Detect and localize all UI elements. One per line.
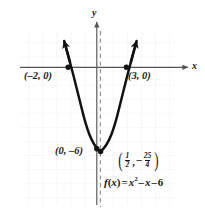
vertex-x-fraction: 1 2 bbox=[125, 152, 131, 169]
x-axis-label: x bbox=[192, 61, 197, 71]
y-axis-label: y bbox=[92, 8, 96, 18]
label-x-intercept-left: (–2, 0) bbox=[24, 71, 52, 82]
graph-canvas bbox=[0, 0, 205, 221]
quadratic-graph-figure: y x (–2, 0) (3, 0) (0, –6) ( 1 2 , – 25 … bbox=[0, 0, 205, 221]
point-marker-vertex bbox=[98, 149, 103, 154]
point-marker-root-left bbox=[66, 65, 71, 70]
label-function-equation: f(x) = x2 – x – 6 bbox=[104, 176, 163, 188]
vertex-x-denominator: 2 bbox=[125, 160, 131, 169]
vertex-close-paren: ) bbox=[154, 152, 158, 169]
equation-equals-sign: = bbox=[121, 176, 127, 188]
equation-close-paren: ) bbox=[117, 176, 121, 188]
equation-exponent: 2 bbox=[134, 175, 138, 183]
label-y-intercept: (0, –6) bbox=[55, 146, 83, 157]
equation-minus-1: – bbox=[139, 176, 145, 188]
equation-minus-2: – bbox=[151, 176, 157, 188]
vertex-y-fraction: 25 4 bbox=[143, 152, 153, 169]
vertex-open-paren: ( bbox=[118, 152, 122, 169]
label-x-intercept-right: (3, 0) bbox=[128, 71, 151, 82]
vertex-minus-sign: – bbox=[136, 155, 142, 166]
equation-constant: 6 bbox=[158, 176, 164, 188]
label-vertex: ( 1 2 , – 25 4 ) bbox=[117, 152, 160, 169]
vertex-y-numerator: 25 bbox=[143, 152, 153, 160]
equation-linear-term: x bbox=[145, 176, 151, 188]
vertex-x-numerator: 1 bbox=[125, 152, 131, 160]
vertex-y-denominator: 4 bbox=[145, 160, 151, 169]
